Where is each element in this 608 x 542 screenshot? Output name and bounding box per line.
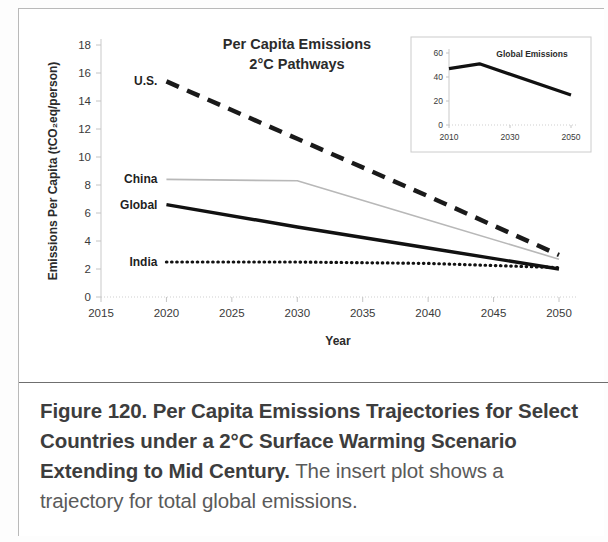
x-tick-label: 2035 xyxy=(350,307,376,319)
x-tick-label: 2025 xyxy=(219,307,245,319)
inset-x-tick-label: 2010 xyxy=(440,132,459,142)
y-tick-label: 0 xyxy=(85,291,91,303)
chart-area: 024681012141618 201520202025203020352040… xyxy=(19,9,608,381)
x-axis-title: Year xyxy=(325,334,351,348)
y-tick-label: 2 xyxy=(85,263,91,275)
y-axis-title: Emissions Per Capita (tCO₂eq/person) xyxy=(46,62,60,281)
y-tick-label: 8 xyxy=(85,179,91,191)
x-tick-label: 2030 xyxy=(284,307,310,319)
x-tick-label: 2050 xyxy=(546,307,572,319)
inset-y-tick-label: 20 xyxy=(434,96,444,106)
inset-y-tick-label: 60 xyxy=(434,48,444,58)
y-axis-ticks: 024681012141618 xyxy=(78,39,101,303)
per-capita-emissions-chart: 024681012141618 201520202025203020352040… xyxy=(19,9,608,381)
inset-global-emissions-chart: 0204060 201020302050 Global Emissions xyxy=(411,37,591,152)
y-tick-label: 16 xyxy=(78,67,91,79)
series-line-global xyxy=(166,205,559,269)
y-tick-label: 14 xyxy=(78,95,91,107)
figure-caption: Figure 120. Per Capita Emissions Traject… xyxy=(40,396,580,516)
svg-text:Emissions Per Capita (tCO₂eq/p: Emissions Per Capita (tCO₂eq/person) xyxy=(46,62,60,281)
inset-title: Global Emissions xyxy=(496,49,568,59)
x-axis-ticks: 20152020202520302035204020452050 xyxy=(88,297,572,319)
y-tick-label: 4 xyxy=(85,235,92,247)
series-label-china: China xyxy=(124,172,158,186)
series-label-global: Global xyxy=(120,198,157,212)
chart-subtitle: 2°C Pathways xyxy=(249,56,344,72)
y-tick-label: 10 xyxy=(78,151,91,163)
x-tick-label: 2020 xyxy=(154,307,180,319)
chart-title: Per Capita Emissions xyxy=(223,36,371,52)
series-label-india: India xyxy=(129,255,157,269)
inset-x-tick-label: 2050 xyxy=(562,132,581,142)
x-tick-label: 2040 xyxy=(415,307,441,319)
series-line-china xyxy=(166,179,559,259)
inset-x-tick-label: 2030 xyxy=(501,132,520,142)
inset-y-tick-label: 0 xyxy=(438,120,443,130)
figure-page: 024681012141618 201520202025203020352040… xyxy=(0,0,608,542)
caption-divider xyxy=(19,382,608,383)
inset-y-tick-label: 40 xyxy=(434,72,444,82)
y-tick-label: 18 xyxy=(78,39,91,51)
series-label-us: U.S. xyxy=(134,74,157,88)
y-tick-label: 12 xyxy=(78,123,91,135)
x-tick-label: 2015 xyxy=(88,307,114,319)
series-line-india xyxy=(166,262,559,268)
series-inline-labels: U.S.ChinaGlobalIndia xyxy=(120,74,158,269)
x-tick-label: 2045 xyxy=(481,307,507,319)
y-tick-label: 6 xyxy=(85,207,91,219)
